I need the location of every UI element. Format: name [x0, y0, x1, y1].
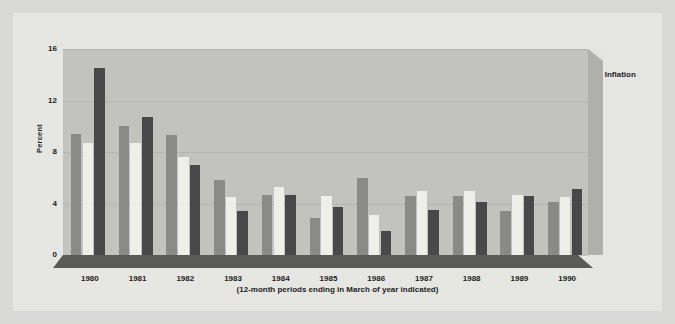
bar-inflation-1989[interactable]	[524, 196, 535, 255]
bar-union-1983[interactable]	[214, 180, 225, 255]
bar-nonunion-1984[interactable]	[274, 187, 285, 255]
bar-inflation-1983[interactable]	[237, 211, 248, 255]
x-tick-label-1984: 1984	[272, 274, 290, 283]
y-tick-label: 16	[27, 45, 57, 53]
bar-nonunion-1989[interactable]	[512, 195, 523, 256]
plot-side-wall	[588, 49, 603, 255]
bar-union-1988[interactable]	[453, 196, 464, 255]
x-tick-label-1990: 1990	[558, 274, 576, 283]
bar-union-1989[interactable]	[500, 211, 511, 255]
bar-nonunion-1990[interactable]	[560, 197, 571, 255]
bar-union-1981[interactable]	[119, 126, 130, 255]
bar-inflation-1990[interactable]	[572, 189, 583, 255]
bar-nonunion-1980[interactable]	[83, 143, 94, 255]
bar-union-1986[interactable]	[357, 178, 368, 255]
bar-nonunion-1983[interactable]	[226, 197, 237, 255]
x-tick-label-1985: 1985	[320, 274, 338, 283]
x-tick-label-1989: 1989	[511, 274, 529, 283]
x-tick-label-1982: 1982	[176, 274, 194, 283]
bar-inflation-1982[interactable]	[190, 165, 201, 255]
chart-card: Union wage increases Nonunion wage incre…	[13, 13, 662, 311]
x-tick-label-1987: 1987	[415, 274, 433, 283]
bar-inflation-1981[interactable]	[142, 117, 153, 255]
legend-label-inflation: Inflation	[605, 70, 636, 79]
chart-figure: Union wage increases Nonunion wage incre…	[0, 0, 675, 324]
bar-union-1982[interactable]	[166, 135, 177, 255]
x-tick-label-1986: 1986	[367, 274, 385, 283]
x-tick-label-1981: 1981	[129, 274, 147, 283]
bar-union-1987[interactable]	[405, 196, 416, 255]
bar-nonunion-1985[interactable]	[321, 196, 332, 255]
bar-nonunion-1987[interactable]	[417, 191, 428, 255]
x-tick-label-1983: 1983	[224, 274, 242, 283]
bar-group-container	[63, 49, 588, 255]
bar-inflation-1988[interactable]	[476, 202, 487, 255]
bar-nonunion-1986[interactable]	[369, 215, 380, 255]
y-tick-label: 0	[27, 251, 57, 259]
bar-nonunion-1988[interactable]	[464, 191, 475, 255]
x-tick-label-1980: 1980	[81, 274, 99, 283]
bar-inflation-1987[interactable]	[428, 210, 439, 255]
x-tick-label-1988: 1988	[463, 274, 481, 283]
bar-nonunion-1982[interactable]	[178, 157, 189, 255]
y-axis-ticks: 1612840	[25, 49, 57, 255]
bar-inflation-1980[interactable]	[94, 68, 105, 255]
bar-union-1980[interactable]	[71, 134, 82, 255]
bar-union-1985[interactable]	[310, 218, 321, 255]
y-tick-label: 12	[27, 97, 57, 105]
bar-union-1990[interactable]	[548, 202, 559, 255]
bar-inflation-1985[interactable]	[333, 207, 344, 255]
plot-area: 1612840 19801981198219831984198519861987…	[63, 49, 603, 264]
bar-nonunion-1981[interactable]	[130, 143, 141, 255]
chart-subtitle: (12-month periods ending in March of yea…	[13, 285, 662, 294]
bar-inflation-1986[interactable]	[381, 231, 392, 255]
plot-base-slab	[53, 255, 603, 268]
y-tick-label: 4	[27, 200, 57, 208]
y-tick-label: 8	[27, 148, 57, 156]
bar-union-1984[interactable]	[262, 195, 273, 256]
bar-inflation-1984[interactable]	[285, 195, 296, 256]
